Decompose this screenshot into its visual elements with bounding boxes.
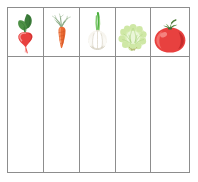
answer-cell[interactable] xyxy=(44,57,80,172)
answer-cell[interactable] xyxy=(151,57,189,172)
lettuce-icon xyxy=(116,8,150,56)
garlic-icon xyxy=(80,8,115,56)
answer-cell[interactable] xyxy=(80,57,116,172)
header-cell-lettuce[interactable]: Lettuce xyxy=(116,8,151,56)
header-cell-tomato[interactable]: Tomato xyxy=(151,8,189,56)
header-cell-radish[interactable]: Radish xyxy=(8,8,44,56)
radish-icon xyxy=(8,8,43,56)
picture-header-row: Radish xyxy=(8,8,189,57)
header-cell-carrot[interactable]: Carrot xyxy=(44,8,80,56)
vegetable-grid: Radish xyxy=(7,7,190,173)
answer-cell[interactable] xyxy=(116,57,151,172)
answer-cell[interactable] xyxy=(8,57,44,172)
answer-row xyxy=(8,57,189,172)
header-cell-garlic[interactable]: Garlic xyxy=(80,8,116,56)
tomato-icon xyxy=(151,8,189,56)
worksheet-page: Radish xyxy=(0,0,198,182)
carrot-icon xyxy=(44,8,79,56)
